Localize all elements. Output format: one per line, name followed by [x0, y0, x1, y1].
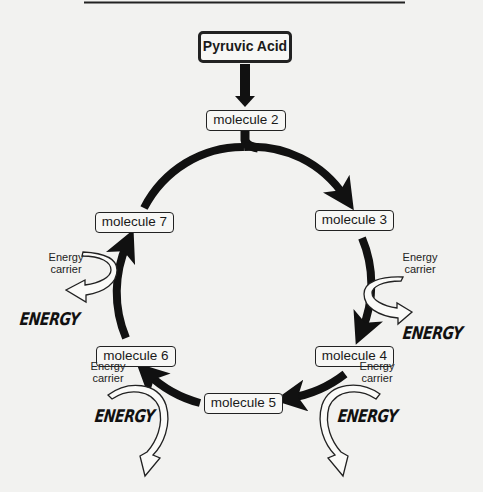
energy-label-right-upper: ENERGY	[402, 323, 464, 343]
carrier-label-line2: carrier	[398, 263, 442, 275]
entry-arrow	[235, 64, 255, 107]
energy-label-left-upper: ENERGY	[19, 309, 81, 329]
carrier-arrow-right-upper	[364, 277, 412, 324]
energy-label-left-lower: ENERGY	[94, 406, 156, 426]
carrier-label-line2: carrier	[44, 263, 88, 275]
molecule-5-box: molecule 5	[204, 393, 283, 414]
carrier-label-line2: carrier	[355, 372, 399, 384]
energy-label-right-lower: ENERGY	[337, 406, 399, 426]
carrier-label-line1: Energy	[355, 360, 399, 372]
carrier-label-line1: Energy	[86, 360, 130, 372]
carrier-arrow-left-lower	[108, 385, 168, 476]
carrier-arrow-right-lower	[320, 385, 380, 476]
molecule-3-box: molecule 3	[315, 210, 394, 231]
energy-carrier-label-left-upper: Energy carrier	[44, 251, 88, 275]
carrier-label-line1: Energy	[398, 251, 442, 263]
pyruvic-acid-box: Pyruvic Acid	[198, 31, 292, 63]
energy-carrier-label-right-upper: Energy carrier	[398, 251, 442, 275]
molecule-2-box: molecule 2	[206, 110, 286, 131]
energy-carrier-label-left-lower: Energy carrier	[86, 360, 130, 384]
carrier-label-line1: Energy	[44, 251, 88, 263]
carrier-label-line2: carrier	[86, 372, 130, 384]
energy-carrier-label-right-lower: Energy carrier	[355, 360, 399, 384]
molecule-7-box: molecule 7	[95, 212, 174, 233]
cycle-diagram	[0, 0, 483, 492]
